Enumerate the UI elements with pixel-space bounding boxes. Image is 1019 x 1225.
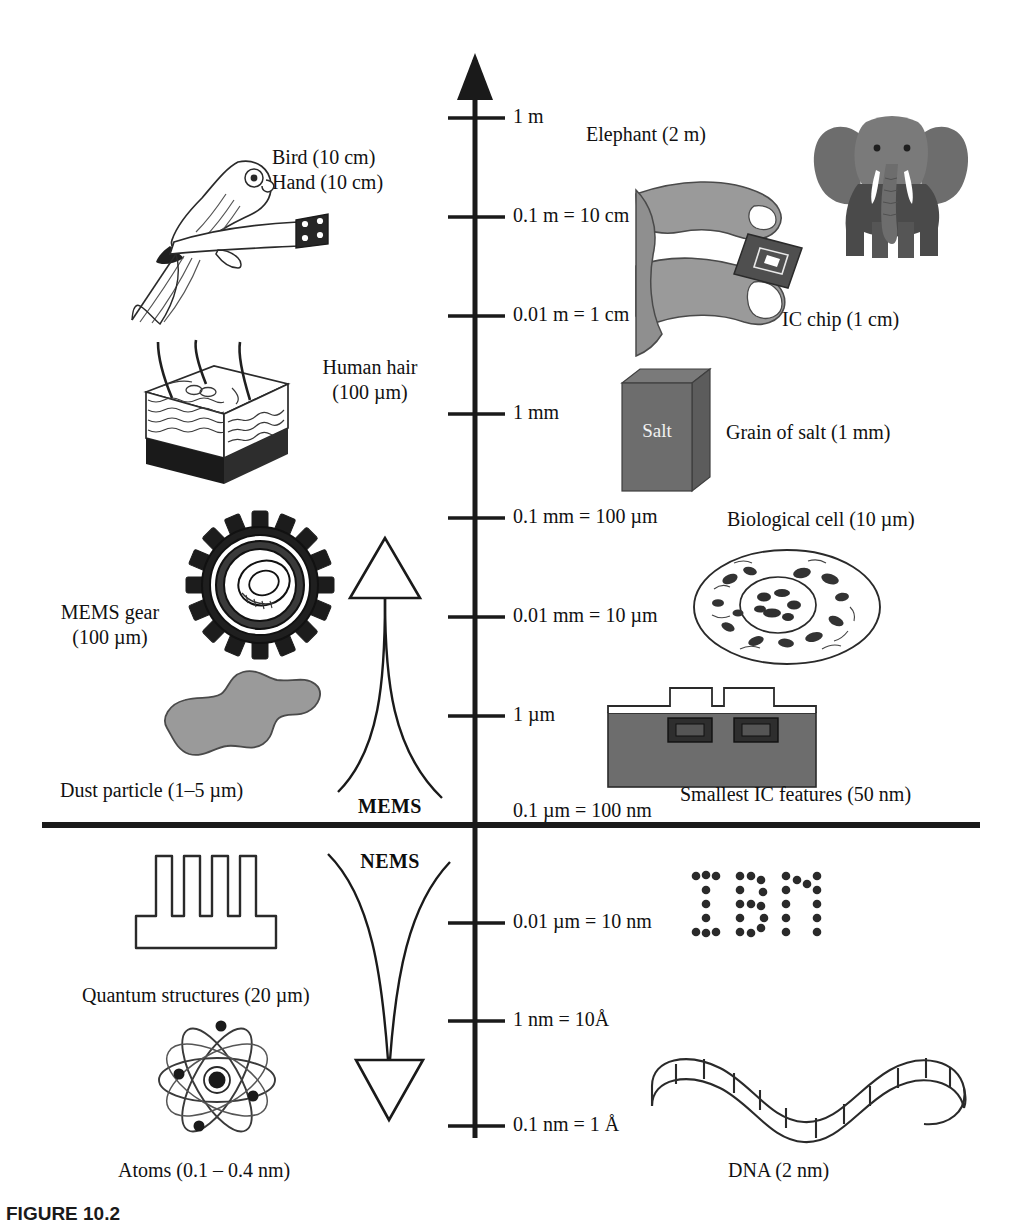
dust-particle-label: Dust particle (1–5 µm): [60, 778, 243, 802]
salt-grain-illustration: Salt: [618, 365, 718, 497]
mems-gear-illustration: [185, 510, 335, 660]
bird-on-hand-illustration: [130, 150, 330, 325]
scale-figure: 1 m 0.1 m = 10 cm 0.01 m = 1 cm 1 mm 0.1…: [0, 0, 1019, 1225]
dna-label: DNA (2 nm): [728, 1158, 829, 1182]
hand-with-ic-chip-illustration: [636, 170, 866, 360]
figure-caption: FIGURE 10.2: [6, 1203, 120, 1225]
atoms-label: Atoms (0.1 – 0.4 nm): [118, 1158, 290, 1182]
tick-label-100um: 0.1 mm = 100 µm: [513, 505, 657, 528]
ic-cross-section-illustration: [606, 680, 818, 795]
mems-funnel-arrow-icon: [330, 530, 450, 820]
mems-region-label: MEMS: [330, 795, 450, 818]
tick-label-1um: 1 µm: [513, 703, 555, 726]
tick-label-1cm: 0.01 m = 1 cm: [513, 303, 629, 326]
tick-label-100nm: 0.1 µm = 100 nm: [513, 799, 652, 822]
ibm-atoms-illustration: [690, 870, 835, 952]
dust-particle-illustration: [155, 660, 330, 770]
quantum-structures-illustration: [128, 848, 288, 958]
quantum-structures-label: Quantum structures (20 µm): [82, 983, 310, 1007]
tick-label-1angstrom: 0.1 nm = 1 Å: [513, 1113, 619, 1136]
tick-label-10um: 0.01 mm = 10 µm: [513, 604, 657, 627]
smallest-ic-features-label: Smallest IC features (50 nm): [680, 782, 911, 806]
nems-funnel-arrow-icon: [320, 848, 460, 1128]
tick-label-1mm: 1 mm: [513, 401, 559, 424]
salt-box-text: Salt: [642, 420, 672, 441]
tick-label-1nm: 1 nm = 10Å: [513, 1008, 609, 1031]
biological-cell-illustration: [690, 545, 885, 670]
grain-of-salt-label: Grain of salt (1 mm): [726, 420, 890, 444]
axis-arrow-icon: [457, 53, 493, 100]
mems-gear-label-line1: MEMS gear: [30, 600, 190, 624]
mems-gear-label-line2: (100 µm): [30, 625, 190, 649]
skin-with-hair-illustration: [128, 340, 338, 495]
tick-label-10cm: 0.1 m = 10 cm: [513, 204, 629, 227]
atom-illustration: [152, 1018, 282, 1148]
dna-helix-illustration: [648, 1040, 1000, 1144]
ic-chip-label: IC chip (1 cm): [782, 307, 899, 331]
elephant-label: Elephant (2 m): [586, 122, 706, 146]
tick-label-1m: 1 m: [513, 105, 544, 128]
biological-cell-label: Biological cell (10 µm): [727, 507, 915, 531]
tick-label-10nm: 0.01 µm = 10 nm: [513, 910, 652, 933]
